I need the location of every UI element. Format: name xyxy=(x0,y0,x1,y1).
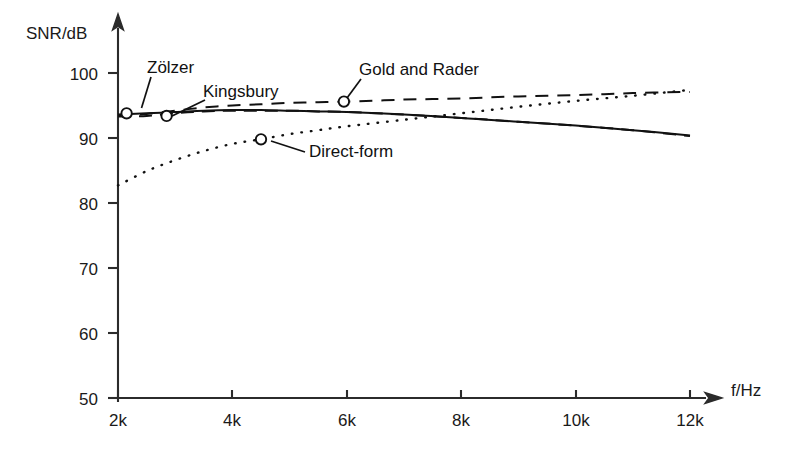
y-tick-label-80: 80 xyxy=(79,195,98,214)
leader-gold-and-rader xyxy=(347,79,361,98)
series-label-gold-and-rader: Gold and Rader xyxy=(359,60,479,79)
chart-canvas: 100 90 80 70 60 50 SNR/dB 2k 4k 6k 8k 10… xyxy=(0,0,803,454)
y-axis-title: SNR/dB xyxy=(26,24,87,43)
series-label-kingsbury: Kingsbury xyxy=(203,82,279,101)
x-tick-label-8k: 8k xyxy=(452,411,470,430)
leader-direct-form xyxy=(271,141,305,152)
series-label-direct-form: Direct-form xyxy=(309,142,393,161)
annotation-group: Zölzer Kingsbury Gold and Rader Direct-f… xyxy=(121,58,479,161)
y-tick-label-50: 50 xyxy=(79,390,98,409)
y-tick-label-90: 90 xyxy=(79,130,98,149)
leader-zolzer xyxy=(142,77,152,108)
x-axis-title: f/Hz xyxy=(731,381,761,400)
x-tick-label-2k: 2k xyxy=(109,411,127,430)
x-tick-label-12k: 12k xyxy=(676,411,704,430)
series-line-zolzer xyxy=(118,110,690,135)
marker-gold-and-rader xyxy=(339,96,349,106)
y-tick-label-60: 60 xyxy=(79,325,98,344)
x-axis: 2k 4k 6k 8k 10k 12k f/Hz xyxy=(109,381,761,430)
marker-zolzer xyxy=(121,108,131,118)
x-tick-label-10k: 10k xyxy=(562,411,590,430)
series-line-direct-form xyxy=(118,90,690,185)
y-tick-label-100: 100 xyxy=(70,65,98,84)
y-axis: 100 90 80 70 60 50 SNR/dB xyxy=(26,14,124,409)
series-group xyxy=(118,90,690,185)
x-tick-label-6k: 6k xyxy=(338,411,356,430)
y-axis-arrowhead xyxy=(113,14,124,30)
x-tick-label-4k: 4k xyxy=(223,411,241,430)
marker-direct-form xyxy=(256,134,266,144)
y-tick-label-70: 70 xyxy=(79,260,98,279)
marker-kingsbury xyxy=(161,111,171,121)
snr-vs-frequency-chart: 100 90 80 70 60 50 SNR/dB 2k 4k 6k 8k 10… xyxy=(0,0,803,454)
x-axis-arrowhead xyxy=(705,393,722,404)
leader-kingsbury xyxy=(172,100,205,116)
series-label-zolzer: Zölzer xyxy=(147,58,195,77)
